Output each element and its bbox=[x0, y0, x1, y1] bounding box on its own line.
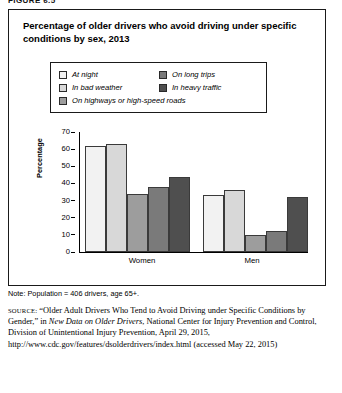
y-tick: 30 bbox=[45, 196, 75, 206]
y-axis: 70 60 50 40 30 20 10 0 bbox=[45, 132, 75, 252]
chart-source: SOURCE: “Older Adult Drivers Who Tend to… bbox=[8, 305, 326, 350]
bar-series-container bbox=[80, 132, 308, 252]
legend-item-on-highways: On highways or high-speed roads bbox=[59, 96, 259, 105]
source-prefix: SOURCE: bbox=[8, 307, 37, 314]
bar-women-at-night[interactable] bbox=[85, 146, 106, 252]
figure-number-label: FIGURE 6.5 bbox=[8, 0, 56, 5]
y-tick-label: 20 bbox=[62, 213, 75, 222]
x-axis-labels: Women Men bbox=[79, 256, 307, 268]
legend-item-on-long-trips: On long trips bbox=[159, 70, 259, 79]
y-tick-label: 50 bbox=[62, 161, 75, 170]
legend-label: At night bbox=[72, 70, 98, 79]
bar-men-on-long-trips[interactable] bbox=[266, 231, 287, 252]
y-tick-label: 10 bbox=[62, 230, 75, 239]
chart-axes bbox=[79, 132, 308, 253]
bar-women-on-highways[interactable] bbox=[127, 194, 148, 252]
bar-men-on-highways[interactable] bbox=[245, 235, 266, 252]
y-tick-label: 60 bbox=[62, 144, 75, 153]
y-tick-label: 70 bbox=[62, 127, 75, 136]
legend-label: In heavy traffic bbox=[172, 83, 221, 92]
legend-swatch-icon bbox=[59, 97, 67, 105]
bar-women-on-long-trips[interactable] bbox=[148, 187, 169, 252]
y-tick: 40 bbox=[45, 178, 75, 188]
plot-area: Percentage 70 60 50 40 30 20 10 0 bbox=[9, 132, 327, 292]
legend-label: In bad weather bbox=[72, 83, 122, 92]
bar-group-men bbox=[203, 132, 308, 252]
legend-swatch-icon bbox=[159, 84, 167, 92]
legend-swatch-icon bbox=[159, 71, 167, 79]
x-label-men: Men bbox=[244, 256, 259, 265]
bar-women-in-bad-weather[interactable] bbox=[106, 144, 127, 252]
y-tick: 20 bbox=[45, 213, 75, 223]
y-tick: 10 bbox=[45, 230, 75, 240]
legend-row: At night On long trips bbox=[59, 68, 259, 81]
bar-men-in-heavy-traffic[interactable] bbox=[287, 197, 308, 252]
legend-item-at-night: At night bbox=[59, 70, 159, 79]
legend-row: On highways or high-speed roads bbox=[59, 94, 259, 107]
bar-women-in-heavy-traffic[interactable] bbox=[169, 177, 190, 252]
chart-legend: At night On long trips In bad weather In… bbox=[50, 62, 267, 113]
y-tick-label: 0 bbox=[66, 247, 75, 256]
legend-item-in-heavy-traffic: In heavy traffic bbox=[159, 83, 259, 92]
y-tick: 50 bbox=[45, 161, 75, 171]
y-tick-label: 30 bbox=[62, 196, 75, 205]
legend-swatch-icon bbox=[59, 84, 67, 92]
legend-label: On long trips bbox=[172, 70, 215, 79]
figure-box: Percentage of older drivers who avoid dr… bbox=[8, 9, 326, 286]
y-tick: 0 bbox=[45, 247, 75, 257]
y-tick-label: 40 bbox=[62, 178, 75, 187]
y-axis-title: Percentage bbox=[35, 138, 44, 178]
legend-label: On highways or high-speed roads bbox=[72, 96, 186, 105]
source-publication-title: New Data on Older Drivers bbox=[49, 317, 143, 326]
bar-men-in-bad-weather[interactable] bbox=[224, 190, 245, 252]
y-tick: 60 bbox=[45, 144, 75, 154]
chart-title: Percentage of older drivers who avoid dr… bbox=[23, 19, 313, 45]
bar-group-women bbox=[85, 132, 190, 252]
y-tick: 70 bbox=[45, 127, 75, 137]
legend-swatch-icon bbox=[59, 71, 67, 79]
x-label-women: Women bbox=[129, 256, 156, 265]
group-gap bbox=[190, 132, 203, 252]
legend-item-in-bad-weather: In bad weather bbox=[59, 83, 159, 92]
legend-row: In bad weather In heavy traffic bbox=[59, 81, 259, 94]
bar-men-at-night[interactable] bbox=[203, 195, 224, 252]
chart-note: Note: Population = 406 drivers, age 65+. bbox=[8, 289, 328, 298]
